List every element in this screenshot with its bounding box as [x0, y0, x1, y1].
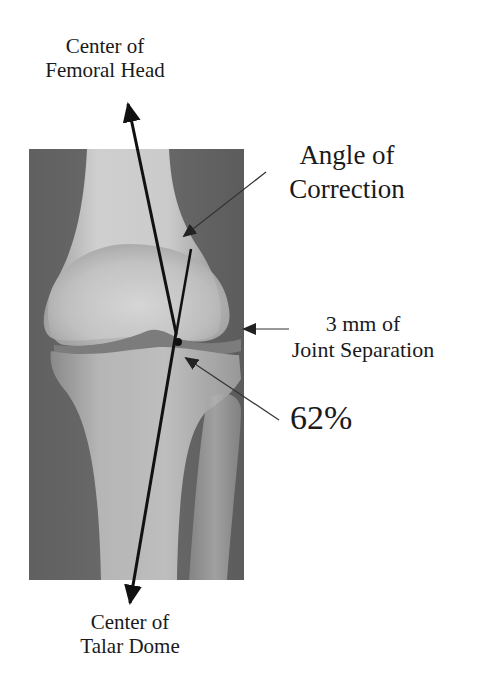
label-angle-of-correction: Angle of Correction: [262, 139, 432, 207]
label-line: Joint Separation: [268, 337, 458, 363]
label-line: 3 mm of: [268, 311, 458, 337]
label-line: Angle of: [262, 139, 432, 173]
label-joint-separation: 3 mm of Joint Separation: [268, 311, 458, 364]
label-line: Center of: [20, 34, 190, 58]
label-center-femoral-head: Center of Femoral Head: [20, 34, 190, 82]
label-line: Center of: [50, 610, 210, 634]
label-line: Femoral Head: [20, 58, 190, 82]
knee-xray-image: [29, 149, 244, 580]
label-center-talar-dome: Center of Talar Dome: [50, 610, 210, 658]
label-line: Correction: [262, 173, 432, 207]
label-line: Talar Dome: [50, 634, 210, 658]
label-percent: 62%: [290, 398, 380, 437]
